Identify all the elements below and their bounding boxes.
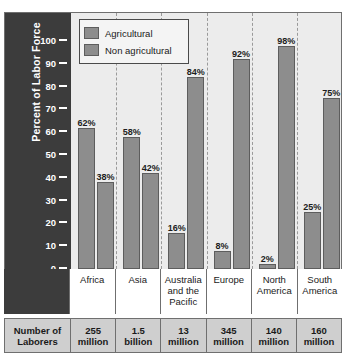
bar-value-label: 16%: [168, 223, 186, 233]
y-axis-panel: Percent of Labor Force 10090807060504030…: [5, 13, 71, 313]
bar-value-label: 98%: [277, 36, 295, 46]
category-cell: NorthAmerica: [252, 269, 298, 314]
y-tick-mark: [59, 244, 67, 246]
bar-agricultural: 16%: [168, 233, 185, 269]
y-tick-label: 10: [45, 240, 56, 252]
category-label-line: America: [257, 285, 292, 296]
laborers-cell: 1.5billion: [116, 319, 161, 352]
bar-non-agricultural: 92%: [233, 59, 250, 269]
laborers-cell: 160million: [297, 319, 341, 352]
laborers-unit: million: [168, 336, 199, 347]
y-tick-90: 90: [11, 58, 67, 70]
y-tick-60: 60: [11, 126, 67, 138]
y-tick-100: 100: [11, 35, 67, 47]
y-tick-label: 60: [45, 126, 56, 138]
category-cell: Africa: [70, 269, 116, 314]
laborers-cell: 13million: [161, 319, 206, 352]
laborers-value: 13: [168, 325, 199, 336]
laborers-unit: million: [78, 336, 109, 347]
bar-value-label: 92%: [232, 49, 250, 59]
laborers-value: 345: [213, 325, 244, 336]
category-label-row: AfricaAsiaAustraliaand thePacificEuropeN…: [4, 269, 342, 314]
y-tick-label: 80: [45, 81, 56, 93]
bar-agricultural: 58%: [123, 137, 140, 269]
bar-value-label: 75%: [322, 88, 340, 98]
bar-value-label: 62%: [77, 118, 95, 128]
laborers-header-line1: Number of: [14, 325, 62, 336]
laborers-table-row: Number of Laborers 255million1.5billion1…: [4, 318, 342, 353]
category-label-line: Pacific: [165, 296, 202, 307]
bar-agricultural: 62%: [78, 128, 95, 269]
y-tick-label: 40: [45, 172, 56, 184]
bar-agricultural: 25%: [304, 212, 321, 269]
category-label-line: Europe: [213, 274, 244, 285]
y-tick-mark: [59, 130, 67, 132]
laborers-unit: million: [258, 336, 289, 347]
y-tick-50: 50: [11, 149, 67, 161]
legend-item-agricultural: Agricultural: [84, 25, 183, 41]
category-label-line: Australia: [165, 274, 202, 285]
y-tick-label: 100: [40, 35, 56, 47]
y-tick-40: 40: [11, 172, 67, 184]
bar-non-agricultural: 42%: [142, 173, 159, 269]
laborers-unit: million: [213, 336, 244, 347]
legend-item-non-agricultural: Non agricultural: [84, 42, 183, 58]
y-tick-80: 80: [11, 81, 67, 93]
category-label-line: America: [302, 285, 337, 296]
y-tick-mark: [59, 199, 67, 201]
y-tick-label: 20: [45, 217, 56, 229]
y-tick-70: 70: [11, 103, 67, 115]
bar-group: 2%98%: [252, 13, 297, 269]
y-tick-mark: [59, 39, 67, 41]
category-label-line: Africa: [80, 274, 104, 285]
cropped-title: [0, 0, 346, 5]
laborers-value: 160: [304, 325, 335, 336]
bar-value-label: 38%: [96, 172, 114, 182]
chart-legend: Agricultural Non agricultural: [79, 19, 189, 64]
bar-value-label: 42%: [142, 163, 160, 173]
bar-value-label: 25%: [303, 202, 321, 212]
bar-value-label: 84%: [187, 67, 205, 77]
bar-non-agricultural: 98%: [278, 46, 295, 269]
category-cell: Australiaand thePacific: [161, 269, 207, 314]
y-tick-mark: [59, 85, 67, 87]
laborers-value: 1.5: [124, 325, 152, 336]
y-tick-mark: [59, 221, 67, 223]
category-label-line: Asia: [129, 274, 147, 285]
laborers-unit: billion: [124, 336, 152, 347]
laborers-header-line2: Laborers: [14, 336, 62, 347]
y-tick-label: 50: [45, 149, 56, 161]
y-tick-mark: [59, 107, 67, 109]
laborers-cell: 255million: [71, 319, 116, 352]
y-tick-label: 90: [45, 58, 56, 70]
category-label-line: and the: [165, 285, 202, 296]
bar-value-label: 2%: [261, 254, 274, 264]
category-cell: SouthAmerica: [298, 269, 343, 314]
bar-group: 25%75%: [297, 13, 342, 269]
bar-non-agricultural: 84%: [187, 77, 204, 269]
laborers-row-header: Number of Laborers: [5, 319, 71, 352]
bar-value-label: 8%: [215, 241, 228, 251]
category-cell: Asia: [116, 269, 162, 314]
laborers-cell: 345million: [207, 319, 252, 352]
bar-non-agricultural: 75%: [323, 98, 340, 269]
category-row-spacer: [4, 269, 70, 314]
category-label-line: North: [257, 274, 292, 285]
bar-value-label: 58%: [123, 127, 141, 137]
y-tick-label: 30: [45, 195, 56, 207]
y-tick-20: 20: [11, 217, 67, 229]
y-tick-mark: [59, 62, 67, 64]
bar-agricultural: 8%: [214, 251, 231, 269]
y-tick-label: 70: [45, 103, 56, 115]
y-tick-30: 30: [11, 195, 67, 207]
legend-label-agricultural: Agricultural: [105, 28, 153, 39]
bar-group: 8%92%: [207, 13, 252, 269]
laborers-value: 140: [258, 325, 289, 336]
laborers-value: 255: [78, 325, 109, 336]
chart-figure: Percent of Labor Force 10090807060504030…: [0, 0, 346, 357]
category-cell: Europe: [207, 269, 253, 314]
y-tick-mark: [59, 153, 67, 155]
bar-non-agricultural: 38%: [97, 182, 114, 269]
laborers-cell: 140million: [252, 319, 297, 352]
category-label-line: South: [302, 274, 337, 285]
